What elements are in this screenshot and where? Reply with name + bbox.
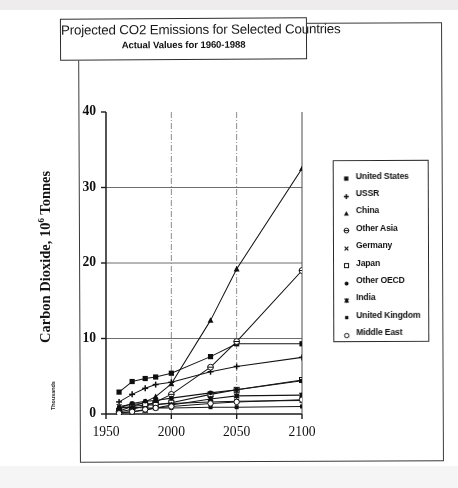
legend-item-label: Other OECD [356, 275, 405, 285]
legend-item-united-kingdom[interactable]: United Kingdom [340, 306, 428, 324]
legend-item-label: Germany [356, 240, 392, 250]
open-circle-bar-icon [340, 222, 353, 233]
y-tick-label: 30 [64, 179, 96, 195]
chart-series-layer [116, 165, 305, 416]
y-axis-title-text: Carbon Dioxide, 106 Tonnes [36, 171, 54, 343]
x-tick-label: 1950 [76, 424, 136, 440]
filled-triangle-icon [340, 205, 353, 216]
y-axis-title: Carbon Dioxide, 106 Tonnes Thousands [14, 175, 40, 345]
x-tick-label: 2000 [141, 424, 201, 440]
x-tick-label: 2050 [207, 424, 267, 440]
legend-item-germany[interactable]: Germany [340, 236, 428, 254]
legend-item-label: United Kingdom [356, 310, 420, 320]
legend-item-label: Japan [356, 258, 380, 268]
y-axis-units: Thousands [50, 381, 56, 410]
legend-item-japan[interactable]: Japan [340, 254, 428, 272]
y-tick-label: 20 [64, 254, 96, 270]
open-square-icon [340, 257, 353, 268]
y-tick-label: 10 [64, 330, 96, 346]
filled-circle-icon [340, 275, 353, 286]
legend-item-united-states[interactable]: United States [340, 167, 428, 185]
open-circle-icon [340, 327, 353, 338]
legend-item-label: United States [356, 171, 409, 181]
legend-item-label: Middle East [356, 327, 402, 337]
chart-gridlines [106, 112, 302, 414]
legend-item-other-asia[interactable]: Other Asia [340, 219, 428, 237]
legend-item-label: USSR [356, 188, 379, 198]
legend-item-other-oecd[interactable]: Other OECD [340, 271, 428, 289]
small-cross-icon [340, 240, 353, 251]
chart-legend: United StatesUSSRChinaOther AsiaGermanyJ… [333, 160, 430, 342]
y-tick-label: 40 [64, 103, 96, 119]
x-tick-label: 2100 [272, 424, 332, 440]
legend-item-ussr[interactable]: USSR [340, 184, 428, 202]
legend-item-label: India [356, 292, 375, 302]
filled-square-icon [340, 170, 353, 181]
legend-item-label: Other Asia [356, 223, 398, 233]
legend-item-middle-east[interactable]: Middle East [340, 323, 428, 341]
plus-icon [340, 188, 353, 199]
y-tick-label: 0 [64, 405, 96, 421]
small-square-icon [340, 309, 353, 320]
legend-item-label: China [356, 205, 379, 215]
star-icon [340, 292, 353, 303]
legend-item-india[interactable]: India [340, 289, 428, 307]
legend-item-china[interactable]: China [340, 202, 428, 220]
